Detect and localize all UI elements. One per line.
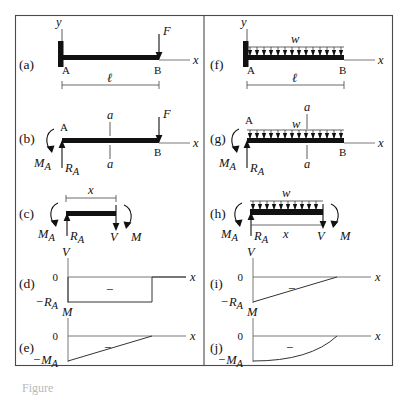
- ytick-negMA-e: −MA: [33, 353, 59, 369]
- x-distance-label-c: x: [87, 183, 94, 197]
- x-axis-label-f: x: [377, 53, 384, 67]
- distributed-load-arrows-h: [251, 201, 318, 210]
- x-distance-label-h: x: [282, 227, 289, 241]
- sign-annotation-i: −: [288, 281, 295, 296]
- v-axis-label-d: V: [62, 245, 71, 259]
- shear-curve-d: [68, 277, 186, 302]
- reaction-force-label-g: RA: [249, 161, 265, 177]
- section-label-upper-b: a: [107, 108, 113, 122]
- distributed-load-label-g: w: [292, 117, 301, 131]
- node-a-label-f: A: [247, 64, 255, 76]
- figure-container: (a) y x F A B ℓ (b) x MA: [0, 0, 406, 396]
- x-axis-label-g: x: [377, 136, 384, 150]
- panel-c-label: (c): [19, 206, 34, 221]
- beam-segment-h: [250, 209, 323, 215]
- beam-diagrams-figure: (a) y x F A B ℓ (b) x MA: [0, 0, 406, 396]
- panel-g-label: (g): [210, 131, 226, 146]
- v-axis-label-i: V: [247, 245, 256, 259]
- ytick-zero-i: 0: [238, 271, 244, 283]
- moment-reaction-arrowhead-b: [47, 146, 55, 154]
- node-b-label-f: B: [339, 64, 346, 76]
- internal-moment-arrowhead-h: [331, 221, 339, 229]
- beam-a: [62, 55, 159, 60]
- x-axis-label-a: x: [192, 53, 199, 67]
- panel-j: (j) M x 0 −MA −: [210, 305, 381, 369]
- section-label-lower-g: a: [304, 157, 310, 171]
- x-axis-label-j: x: [374, 329, 381, 343]
- panel-d: (d) V x 0 −RA −: [19, 245, 196, 311]
- beam-segment-c: [66, 211, 116, 216]
- ytick-negRA-i: −RA: [221, 295, 244, 311]
- internal-moment-label-h: M: [339, 229, 351, 243]
- m-axis-label-e: M: [61, 305, 73, 319]
- force-label-a: F: [162, 24, 171, 38]
- length-label-a: ℓ: [107, 71, 112, 85]
- ytick-negMA-j: −MA: [218, 353, 244, 369]
- moment-reaction-arrowhead-c: [51, 220, 59, 228]
- panel-i-label: (i): [210, 276, 223, 291]
- ytick-zero-e: 0: [53, 330, 59, 342]
- ytick-zero-d: 0: [53, 271, 59, 283]
- sign-annotation-j: −: [286, 340, 293, 355]
- force-label-b: F: [162, 107, 171, 121]
- node-a-label-b: A: [60, 121, 68, 133]
- panel-f: (f) y x: [210, 15, 384, 89]
- distributed-load-label-f: w: [291, 32, 300, 46]
- panel-f-label: (f): [210, 57, 224, 72]
- moment-reaction-label-h: MA: [220, 227, 238, 243]
- internal-shear-label-c: V: [110, 230, 119, 244]
- panel-h-label: (h): [210, 206, 226, 221]
- beam-b: [62, 138, 159, 143]
- panel-b-label: (b): [19, 131, 35, 146]
- sign-annotation-d: −: [106, 282, 113, 297]
- panel-c: (c) x MA RA V M: [19, 183, 142, 245]
- x-axis-label-b: x: [192, 136, 199, 150]
- panel-a-label: (a): [19, 57, 34, 72]
- reaction-force-label-b: RA: [64, 161, 80, 177]
- moment-curve-j: [253, 336, 337, 361]
- ytick-zero-j: 0: [238, 330, 244, 342]
- moment-reaction-label-c: MA: [37, 227, 55, 243]
- section-label-upper-g: a: [304, 100, 310, 114]
- moment-reaction-label-b: MA: [33, 156, 51, 172]
- panel-a: (a) y x F A B ℓ: [19, 15, 199, 89]
- node-b-label-g: B: [339, 146, 346, 158]
- node-b-label-b: B: [154, 146, 161, 158]
- beam-g: [247, 138, 344, 143]
- moment-reaction-arrowhead-g: [232, 146, 240, 154]
- y-axis-label-f: y: [239, 15, 247, 29]
- moment-reaction-arrowhead-h: [235, 220, 243, 228]
- panel-e: (e) M x 0 −MA −: [19, 305, 196, 369]
- node-a-label-g: A: [245, 114, 253, 126]
- distributed-load-arrows-f: [248, 47, 343, 56]
- length-label-f: ℓ: [292, 71, 297, 85]
- m-axis-label-j: M: [246, 305, 258, 319]
- reaction-force-label-h: RA: [253, 229, 269, 245]
- x-axis-label-i: x: [374, 270, 381, 284]
- x-axis-label-d: x: [189, 270, 196, 284]
- x-axis-label-e: x: [189, 329, 196, 343]
- section-label-lower-b: a: [107, 157, 113, 171]
- node-a-label-a: A: [62, 64, 70, 76]
- reaction-force-label-c: RA: [69, 229, 85, 245]
- distributed-load-arrows-g: [248, 130, 343, 139]
- y-axis-label-a: y: [54, 15, 62, 29]
- panel-d-label: (d): [19, 276, 35, 291]
- panel-g: (g) x: [210, 100, 384, 177]
- panel-i: (i) V x 0 −RA −: [210, 245, 381, 311]
- moment-reaction-label-g: MA: [218, 156, 236, 172]
- internal-shear-label-h: V: [317, 229, 326, 243]
- internal-moment-label-c: M: [130, 230, 142, 244]
- beam-f: [247, 55, 344, 60]
- panel-h: (h) w: [210, 186, 351, 245]
- panel-b: (b) x MA RA a a F A B: [19, 107, 199, 177]
- distributed-load-label-h: w: [282, 186, 291, 200]
- internal-moment-arrowhead-c: [124, 222, 132, 230]
- figure-caption: Figure: [22, 381, 53, 395]
- sign-annotation-e: −: [104, 340, 111, 355]
- node-b-label-a: B: [154, 64, 161, 76]
- ytick-negRA-d: −RA: [36, 295, 59, 311]
